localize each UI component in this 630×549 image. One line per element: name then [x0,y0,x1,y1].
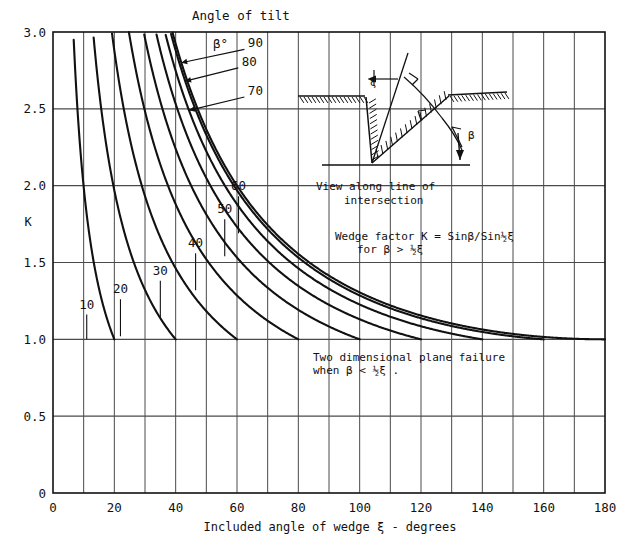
angle-of-tilt-header: Angle of tilt [192,8,290,23]
curve-label-60: 60 [231,178,246,193]
inset-caption-line-1: View along line of [316,180,435,193]
x-tick-label: 80 [291,500,306,515]
inset-beta-label: β [468,129,475,142]
y-axis-label: K [24,215,32,229]
x-tick-label: 0 [49,500,57,515]
beta-degree-symbol-label: β° [213,36,228,51]
x-tick-label: 60 [229,500,244,515]
wedge-factor-chart: 102030405060708090 020406080100120140160… [0,0,630,549]
x-axis-label: Included angle of wedge ξ - degrees [204,520,457,534]
formula-line-2: for β > ½ξ [357,243,423,256]
formula-line-1: Wedge factor K = Sinβ/Sin½ξ [335,230,514,243]
x-tick-label: 140 [471,500,494,515]
plane-failure-line-1: Two dimensional plane failure [313,351,505,364]
x-tick-label: 120 [410,500,433,515]
x-tick-label: 40 [168,500,183,515]
inset-caption-line-2: intersection [344,194,423,207]
curve-label-80: 80 [242,54,257,69]
inset-xi-label: ξ [370,76,377,89]
figure-root: 102030405060708090 020406080100120140160… [0,0,630,549]
curve-label-20: 20 [113,281,128,296]
curve-label-90: 90 [248,35,263,50]
x-tick-label: 160 [532,500,555,515]
y-tick-label: 2.0 [23,178,46,193]
x-tick-label: 20 [107,500,122,515]
x-tick-label: 180 [594,500,617,515]
y-tick-label: 1.0 [23,332,46,347]
curve-label-40: 40 [188,235,203,250]
chart-background [0,0,630,549]
curve-label-70: 70 [248,83,263,98]
curve-label-30: 30 [153,263,168,278]
y-tick-label: 0 [38,486,46,501]
plane-failure-line-2: when β < ½ξ . [313,364,399,377]
y-tick-label: 2.5 [23,101,46,116]
y-tick-label: 1.5 [23,255,46,270]
y-tick-label: 0.5 [23,409,46,424]
y-tick-label: 3.0 [23,25,46,40]
curve-label-10: 10 [79,297,94,312]
curve-label-50: 50 [217,201,232,216]
x-tick-label: 100 [348,500,371,515]
